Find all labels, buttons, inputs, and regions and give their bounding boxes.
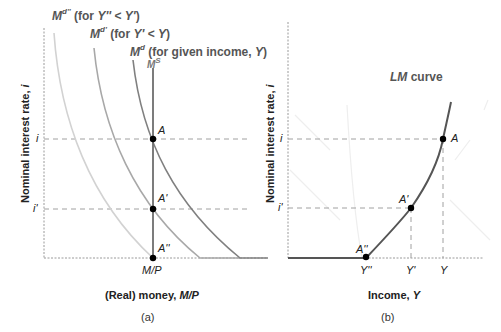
point-label-A-double-prime-panel-b: A'': [356, 243, 368, 255]
point-A-panel-b: [440, 136, 446, 142]
x-tick-Y: Y: [440, 264, 447, 276]
y-tick-i-prime-panel-b: i': [278, 201, 283, 213]
curve-label-md-prime: Md' (for Y' < Y): [90, 26, 170, 41]
point-label-A-panel-b: A: [451, 132, 458, 144]
y-axis-title-panel-b: Nominal interest rate, i: [264, 84, 276, 203]
point-label-A-panel-a: A: [158, 124, 165, 136]
x-tick-Y-prime: Y': [406, 264, 415, 276]
x-tick-mp-panel-a: M/P: [142, 264, 162, 276]
lm-curve-label: LM curve: [390, 70, 443, 84]
point-A-prime-panel-b: [408, 205, 414, 211]
curve-label-md-double-prime: Md'' (for Y'' < Y'): [52, 8, 140, 23]
point-A-double-prime-panel-a: [150, 255, 156, 261]
background-faint-strokes: [290, 100, 490, 258]
money-demand-curve-Y-double-prime: [54, 33, 153, 258]
x-tick-Y-double-prime: Y'': [360, 264, 372, 276]
y-tick-i-panel-b: i: [280, 132, 282, 144]
lm-curve: [288, 102, 451, 258]
x-axis-title-panel-b: Income, Y: [368, 289, 420, 301]
y-tick-i-panel-a: i: [36, 132, 38, 144]
point-A-prime-panel-a: [150, 206, 156, 212]
panel-caption-a: (a): [141, 311, 154, 323]
y-axis-title-panel-a: Nominal interest rate, i: [19, 84, 31, 203]
point-label-A-prime-panel-b: A': [399, 193, 408, 205]
y-tick-i-prime-panel-a: i': [33, 202, 38, 214]
point-label-A-prime-panel-a: A': [158, 192, 167, 204]
curve-label-ms: MS: [147, 57, 161, 70]
x-axis-title-panel-a: (Real) money, M/P: [105, 289, 199, 301]
point-label-A-double-prime-panel-a: A'': [158, 242, 170, 254]
panel-caption-b: (b): [381, 311, 394, 323]
point-A-panel-a: [150, 136, 156, 142]
money-demand-curve-Y-prime: [94, 48, 240, 258]
